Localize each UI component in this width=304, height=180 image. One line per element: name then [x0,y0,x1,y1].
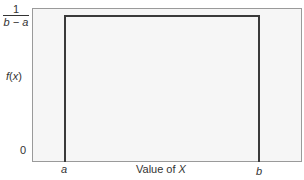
x-tick-a: a [61,163,67,175]
y-axis-label: f(x) [6,70,22,82]
y-tick-top: 1 b − a [2,3,30,28]
y-tick-top-numerator: 1 [2,3,30,15]
y-tick-zero: 0 [20,144,26,156]
y-tick-top-denominator: b − a [2,16,30,28]
uniform-density-line [64,15,260,162]
x-axis-label: Value of X [136,163,186,175]
x-tick-b: b [256,165,262,177]
